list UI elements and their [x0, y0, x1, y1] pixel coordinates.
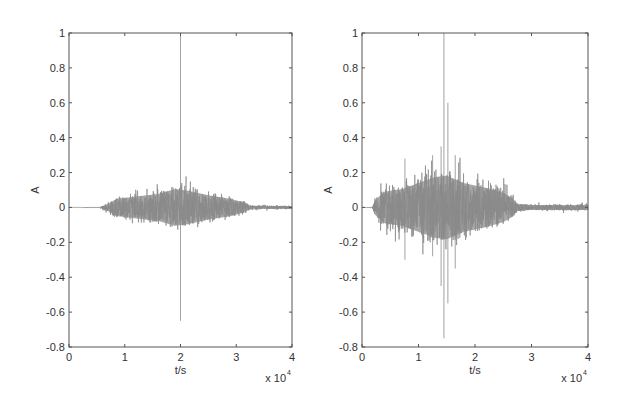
- x-tick-label: 3: [528, 351, 534, 363]
- x-tick-label: 2: [472, 351, 478, 363]
- y-tick-label: -0.4: [46, 271, 65, 283]
- y-tick-label: 0.4: [50, 132, 65, 144]
- y-tick-label: -0.2: [46, 236, 65, 248]
- x-tick-label: 4: [289, 351, 295, 363]
- y-tick-label: 0.8: [343, 62, 358, 74]
- x-tick-label: 0: [359, 351, 365, 363]
- y-tick-label: 1: [352, 27, 358, 39]
- right-plot: 10.80.60.40.20-0.2-0.4-0.6-0.801234t/sx …: [322, 27, 591, 384]
- x-axis-label: t/s: [175, 364, 187, 376]
- x-tick-label: 3: [233, 351, 239, 363]
- waveform-series: [69, 33, 292, 321]
- y-tick-label: 0: [352, 201, 358, 213]
- y-tick-label: 0: [59, 201, 65, 213]
- x-multiplier-exponent: 4: [583, 369, 587, 376]
- x-multiplier-label: x 10: [561, 372, 582, 384]
- y-axis-label: A: [29, 186, 41, 194]
- x-multiplier-exponent: 4: [287, 369, 291, 376]
- y-tick-label: 0.2: [343, 167, 358, 179]
- left-plot: 10.80.60.40.20-0.2-0.4-0.6-0.801234t/sx …: [29, 27, 295, 384]
- x-tick-label: 1: [122, 351, 128, 363]
- y-tick-label: -0.2: [339, 236, 358, 248]
- y-tick-label: -0.6: [46, 306, 65, 318]
- y-tick-label: -0.8: [46, 341, 65, 353]
- y-tick-label: 0.6: [343, 97, 358, 109]
- x-tick-label: 4: [585, 351, 591, 363]
- y-axis-label: A: [322, 186, 334, 194]
- y-tick-label: -0.8: [339, 341, 358, 353]
- y-tick-label: 1: [59, 27, 65, 39]
- y-tick-label: 0.6: [50, 97, 65, 109]
- y-tick-label: -0.4: [339, 271, 358, 283]
- x-tick-label: 2: [177, 351, 183, 363]
- waveform-series: [362, 33, 588, 338]
- x-axis-label: t/s: [469, 364, 481, 376]
- y-tick-label: 0.8: [50, 62, 65, 74]
- y-tick-label: 0.4: [343, 132, 358, 144]
- x-tick-label: 0: [66, 351, 72, 363]
- x-multiplier-label: x 10: [265, 372, 286, 384]
- y-tick-label: -0.6: [339, 306, 358, 318]
- y-tick-label: 0.2: [50, 167, 65, 179]
- x-tick-label: 1: [415, 351, 421, 363]
- figure: 10.80.60.40.20-0.2-0.4-0.6-0.801234t/sx …: [0, 0, 621, 406]
